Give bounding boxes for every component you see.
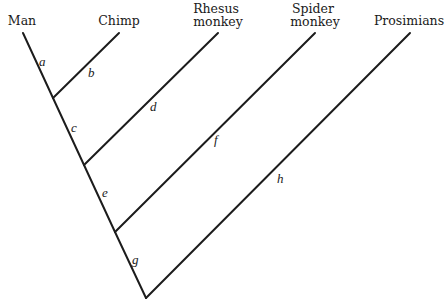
branch-label-d: d — [150, 99, 157, 114]
branch-a — [23, 33, 53, 98]
branch-e — [84, 165, 115, 232]
taxon-label-rhesus-monkey: Rhesus monkey — [193, 1, 244, 29]
branch-label-f: f — [214, 132, 220, 147]
branch-c — [53, 98, 84, 165]
branch-label-c: c — [71, 120, 77, 135]
branch-b — [53, 33, 119, 98]
branch-label-h: h — [277, 171, 284, 186]
branch-g — [115, 232, 146, 298]
branch-h — [146, 33, 410, 298]
taxon-label-chimp: Chimp — [98, 13, 139, 28]
branch-label-a: a — [39, 54, 46, 69]
tree-canvas: Man Chimp Rhesus monkey Spider monkey Pr… — [0, 0, 448, 308]
taxon-label-man: Man — [8, 13, 36, 28]
branch-label-e: e — [102, 185, 108, 200]
taxon-label-prosimians: Prosimians — [374, 13, 444, 28]
phylogenetic-tree-diagram: Man Chimp Rhesus monkey Spider monkey Pr… — [0, 0, 448, 308]
taxon-label-spider-monkey: Spider monkey — [290, 1, 340, 29]
branch-label-g: g — [132, 252, 139, 267]
branch-label-b: b — [88, 65, 95, 80]
